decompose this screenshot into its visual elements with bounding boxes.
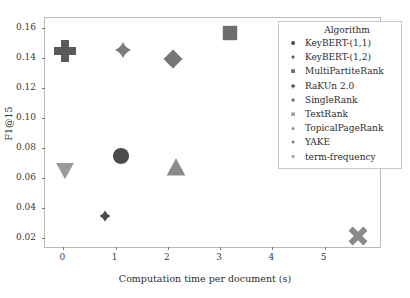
x-axis-tick-label: 0	[59, 252, 65, 262]
y-axis-tick-label: 0.12	[2, 82, 36, 92]
data-point-singlerank[interactable]	[164, 49, 183, 68]
data-point-rakun-2-0[interactable]	[54, 40, 76, 62]
legend-item-keybert-1-2[interactable]: KeyBERT-(1,2)	[283, 50, 397, 64]
legend-marker-icon	[283, 98, 303, 102]
x-axis-tick-label: 1	[112, 252, 118, 262]
legend-item-label: SingleRank	[303, 95, 357, 105]
x-axis-title: Computation time per document (s)	[0, 273, 410, 284]
y-axis-tick-label: 0.16	[2, 22, 36, 32]
y-axis-tick-label: 0.02	[2, 232, 36, 242]
x-axis-tick-label: 4	[268, 252, 274, 262]
y-axis-tick-mark	[42, 88, 45, 89]
x-axis-tick-mark	[116, 247, 117, 250]
legend-item-label: RaKUn 2.0	[303, 81, 354, 91]
y-axis-tick-mark	[42, 208, 45, 209]
x-axis-tick-mark	[168, 247, 169, 250]
y-axis-tick-mark	[42, 148, 45, 149]
y-axis-tick-label: 0.06	[2, 172, 36, 182]
x-axis-tick-mark	[272, 247, 273, 250]
y-axis-tick-mark	[42, 28, 45, 29]
legend-marker-icon	[283, 55, 303, 59]
x-axis-tick-mark	[220, 247, 221, 250]
legend-marker-icon	[283, 84, 303, 88]
x-axis-tick-label: 5	[321, 252, 327, 262]
x-axis-tick-label: 2	[164, 252, 170, 262]
legend-item-keybert-1-1[interactable]: KeyBERT-(1,1)	[283, 36, 397, 50]
y-axis-tick-label: 0.14	[2, 52, 36, 62]
y-axis-tick-mark	[42, 178, 45, 179]
scatter-plot-figure: Computation time per document (s) F1@15 …	[0, 0, 410, 298]
legend-marker-icon	[283, 155, 303, 159]
legend-marker-icon	[283, 112, 303, 116]
legend-item-label: term-frequency	[303, 152, 376, 162]
y-axis-tick-mark	[42, 58, 45, 59]
data-point-term-frequency[interactable]	[55, 162, 74, 181]
y-axis-tick-label: 0.04	[2, 202, 36, 212]
y-axis-tick-label: 0.08	[2, 142, 36, 152]
legend-item-label: TextRank	[303, 109, 348, 119]
data-point-keybert-1-1[interactable]	[112, 148, 129, 165]
legend-title: Algorithm	[283, 25, 397, 36]
legend-entries: KeyBERT-(1,1)KeyBERT-(1,2)MultiPartiteRa…	[283, 36, 397, 164]
legend-marker-icon	[283, 69, 303, 73]
data-point-textrank[interactable]	[349, 226, 368, 245]
legend-item-multipartiterank[interactable]: MultiPartiteRank	[283, 64, 397, 78]
legend-item-label: MultiPartiteRank	[303, 66, 384, 76]
legend-marker-icon	[283, 41, 303, 45]
legend-item-topicalpagerank[interactable]: TopicalPageRank	[283, 121, 397, 135]
legend-item-label: YAKE	[303, 137, 330, 147]
x-axis-tick-label: 3	[216, 252, 222, 262]
legend-item-label: KeyBERT-(1,2)	[303, 52, 371, 62]
legend-item-term-frequency[interactable]: term-frequency	[283, 150, 397, 164]
legend: Algorithm KeyBERT-(1,1)KeyBERT-(1,2)Mult…	[278, 21, 402, 169]
y-axis-tick-label: 0.10	[2, 112, 36, 122]
legend-item-label: KeyBERT-(1,1)	[303, 38, 371, 48]
x-axis-tick-mark	[63, 247, 64, 250]
data-point-yake[interactable]	[115, 42, 131, 58]
y-axis-tick-mark	[42, 238, 45, 239]
legend-item-singlerank[interactable]: SingleRank	[283, 93, 397, 107]
legend-item-rakun-2-0[interactable]: RaKUn 2.0	[283, 79, 397, 93]
legend-marker-icon	[283, 126, 303, 130]
legend-item-label: TopicalPageRank	[303, 123, 383, 133]
legend-marker-icon	[283, 140, 303, 144]
legend-item-textrank[interactable]: TextRank	[283, 107, 397, 121]
data-point-topicalpagerank[interactable]	[166, 157, 186, 177]
legend-item-yake[interactable]: YAKE	[283, 135, 397, 149]
y-axis-tick-mark	[42, 118, 45, 119]
data-point-multipartiterank[interactable]	[222, 25, 238, 41]
x-axis-tick-mark	[325, 247, 326, 250]
data-point-keybert-1-2[interactable]	[100, 211, 111, 222]
